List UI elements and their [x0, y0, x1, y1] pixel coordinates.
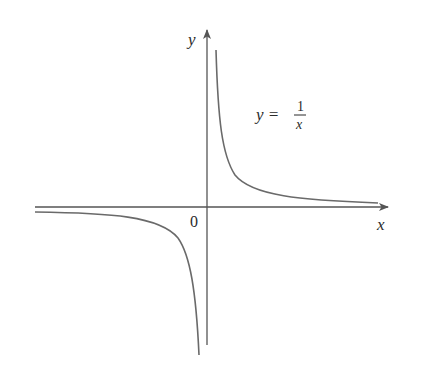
equation-annotation: y = 1 x [254, 99, 306, 132]
equation-denominator: x [295, 117, 303, 132]
curve-negative-branch [35, 212, 199, 355]
y-axis-label: y [186, 30, 196, 49]
origin-label: 0 [190, 213, 198, 230]
x-axis-label: x [376, 215, 385, 234]
equation-numerator: 1 [297, 99, 304, 114]
equation-lhs: y = [254, 105, 279, 124]
hyperbola-chart: y x 0 y = 1 x [0, 0, 421, 368]
